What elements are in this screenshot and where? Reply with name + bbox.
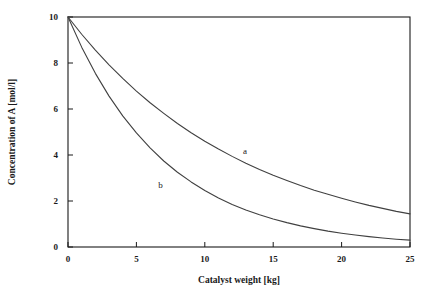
y-axis-ticks <box>68 17 73 247</box>
curve-label-b: b <box>158 181 163 190</box>
axis-frame <box>68 17 410 247</box>
data-curves <box>68 17 410 240</box>
x-axis-title: Catalyst weight [kg] <box>198 276 280 286</box>
y-tick-label: 10 <box>36 13 58 22</box>
x-tick-label: 10 <box>200 255 209 264</box>
plot-frame <box>68 17 410 247</box>
curve-label-a: a <box>243 147 247 156</box>
x-tick-label: 5 <box>134 255 139 264</box>
curve-a <box>68 17 410 214</box>
plot-canvas <box>0 0 430 295</box>
y-tick-label: 6 <box>36 105 58 114</box>
y-axis-title: Concentration of A [mol/l] <box>8 79 18 185</box>
x-tick-label: 20 <box>337 255 346 264</box>
x-tick-label: 25 <box>406 255 415 264</box>
x-axis-ticks <box>68 242 410 247</box>
y-tick-label: 0 <box>36 243 58 252</box>
y-tick-label: 4 <box>36 151 58 160</box>
chart-figure: 0246810 0510152025 ab Catalyst weight [k… <box>0 0 430 295</box>
curve-b <box>68 17 410 240</box>
x-tick-label: 15 <box>269 255 278 264</box>
y-tick-label: 8 <box>36 59 58 68</box>
y-tick-label: 2 <box>36 197 58 206</box>
x-tick-label: 0 <box>66 255 71 264</box>
